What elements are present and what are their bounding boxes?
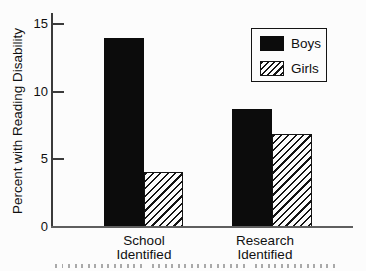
legend-label-boys: Boys bbox=[291, 36, 321, 51]
cutoff-caption-fragment bbox=[55, 264, 145, 268]
legend-swatch-girls bbox=[260, 61, 284, 76]
figure-root: Percent with Reading Disability 051015 S… bbox=[0, 0, 366, 271]
y-tick-mark-10 bbox=[52, 91, 64, 93]
cutoff-caption-fragment bbox=[255, 264, 338, 268]
y-axis-title: Percent with Reading Disability bbox=[10, 28, 25, 214]
legend-row-boys: Boys bbox=[260, 36, 326, 51]
y-axis-line bbox=[51, 13, 53, 228]
y-tick-label-10: 10 bbox=[16, 84, 48, 100]
x-axis-line bbox=[51, 226, 353, 228]
x-category-label-school-identified: SchoolIdentified bbox=[89, 234, 199, 262]
legend-swatch-boys bbox=[260, 36, 284, 51]
x-category-label-research-identified: ResearchIdentified bbox=[210, 234, 320, 262]
y-tick-mark-15 bbox=[52, 23, 64, 25]
legend: Boys Girls bbox=[251, 28, 327, 82]
y-tick-label-5: 5 bbox=[16, 151, 48, 167]
bar-boys-school-identified bbox=[104, 38, 144, 227]
y-tick-label-15: 15 bbox=[16, 16, 48, 32]
cutoff-caption-fragment bbox=[152, 264, 248, 268]
bar-girls-school-identified bbox=[144, 172, 184, 227]
bar-girls-research-identified bbox=[272, 134, 312, 227]
bar-boys-research-identified bbox=[232, 109, 272, 227]
legend-label-girls: Girls bbox=[291, 61, 319, 76]
legend-row-girls: Girls bbox=[260, 61, 326, 76]
y-tick-label-0: 0 bbox=[16, 219, 48, 235]
y-tick-mark-5 bbox=[52, 158, 64, 160]
